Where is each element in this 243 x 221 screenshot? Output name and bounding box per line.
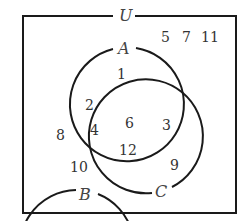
element-a-c: 3 — [162, 117, 171, 133]
set-label-b: B — [78, 185, 91, 204]
element-b-only: 8 — [56, 127, 65, 143]
element-a-b: 2 — [85, 97, 94, 113]
set-label-a: A — [116, 39, 130, 58]
circle-b — [20, 190, 134, 221]
element-c-only: 9 — [170, 157, 179, 173]
circle-c — [89, 79, 203, 193]
element-b-only: 10 — [70, 159, 88, 175]
element-a-only: 1 — [117, 66, 126, 82]
element-a-b-c: 12 — [119, 142, 137, 158]
element-a-b: 4 — [90, 122, 99, 138]
element-a-b-c: 6 — [125, 115, 134, 131]
universe-label: U — [119, 6, 133, 25]
element-outside: 5 — [161, 29, 170, 45]
element-outside: 7 — [182, 29, 191, 45]
set-label-c: C — [155, 182, 167, 201]
element-outside: 11 — [201, 29, 219, 45]
venn-diagram: U A B C 5 7 11 1 2 4 6 12 3 8 10 9 — [0, 0, 243, 221]
